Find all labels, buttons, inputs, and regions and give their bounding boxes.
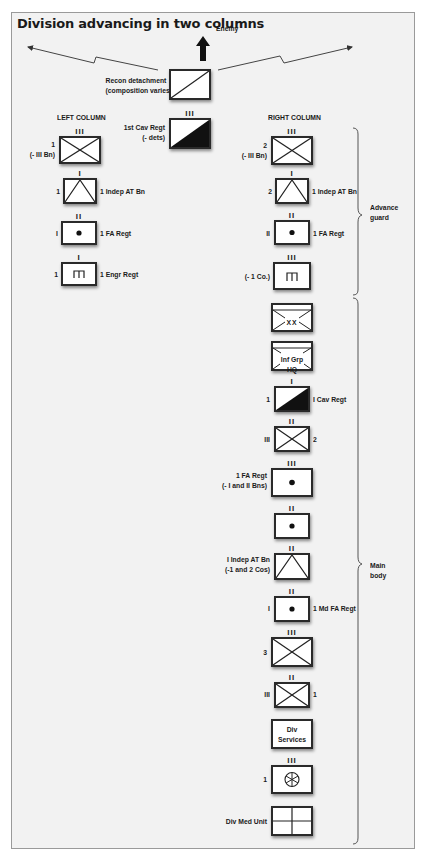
echelon-mark: I <box>63 170 97 178</box>
cavalry-symbol <box>274 386 310 412</box>
echelon-mark: II <box>274 545 310 553</box>
unit-left-label: I <box>253 604 270 614</box>
echelon-mark: II <box>274 418 310 426</box>
cavalry-regiment-symbol <box>169 118 211 149</box>
infantry-battalion-symbol <box>274 682 310 708</box>
echelon-mark: II <box>274 674 310 682</box>
echelon-mark: II <box>61 213 97 221</box>
infantry-battalion-symbol <box>274 426 310 452</box>
field-artillery-symbol <box>271 468 313 497</box>
unit-right-label: 1 Indep AT Bn <box>312 187 357 197</box>
unit-right-label: I Cav Regt <box>313 395 346 405</box>
echelon-mark: II <box>274 212 310 220</box>
unit-right-label: 1 Indep AT Bn <box>100 187 145 197</box>
enemy-label: Enemy <box>216 24 238 34</box>
unit-left-label: Div Med Unit <box>210 817 267 827</box>
infantry-regiment-symbol <box>271 136 313 165</box>
unit-left-label: 1 <box>250 775 267 785</box>
right-recon-arrow <box>218 47 352 70</box>
medium-artillery-symbol <box>274 596 310 622</box>
anti-tank-battalion-symbol <box>274 553 310 580</box>
hq-designator: XX <box>276 318 308 328</box>
echelon-mark: III <box>271 629 313 637</box>
unit-left-label: II <box>253 229 270 239</box>
unit-left-label: 1(- III Bn) <box>17 140 55 160</box>
unit-right-label: 1 <box>313 690 317 700</box>
echelon-mark: III <box>271 128 313 136</box>
unit-left-label: 1 <box>43 187 60 197</box>
engineer-symbol <box>273 262 311 290</box>
unit-left-label: III <box>253 690 270 700</box>
echelon-mark: III <box>271 460 313 468</box>
division-hq-symbol: XX <box>271 303 313 332</box>
unit-left-label: 1 <box>253 395 270 405</box>
unit-left-label: 1 <box>41 270 58 280</box>
advance-guard-label: Advanceguard <box>370 203 398 223</box>
recon-label: Recon detachment(composition varies) <box>106 76 166 96</box>
unit-right-label: 2 <box>313 435 317 445</box>
left-recon-arrow <box>28 47 158 70</box>
echelon-mark: I <box>275 170 309 178</box>
field-artillery-symbol <box>61 221 97 245</box>
anti-tank-battalion-symbol <box>63 178 97 204</box>
division-services-symbol: DivServices <box>271 719 313 749</box>
anti-tank-battalion-symbol <box>275 178 309 204</box>
advance-guard-brace <box>353 128 362 295</box>
unit-left-label: 1 FA Regt(- I and II Bns) <box>210 471 267 491</box>
cav-regt-label: 1st Cav Regt(- dets) <box>110 123 165 143</box>
hq-label: Inf Grp HQ <box>276 355 308 375</box>
unit-right-label: 1 Md FA Regt <box>313 604 356 614</box>
unit-right-label: 1 Engr Regt <box>100 270 138 280</box>
field-artillery-symbol <box>274 513 310 539</box>
unit-right-label: 1 FA Regt <box>100 229 131 239</box>
transport-symbol <box>271 765 313 794</box>
unit-left-label: 2(- III Bn) <box>229 141 267 161</box>
unit-right-label: 1 FA Regt <box>313 229 344 239</box>
echelon-mark: III <box>273 254 311 262</box>
echelon-mark: I <box>274 378 310 386</box>
infantry-regiment-symbol <box>271 637 313 667</box>
echelon-mark: III <box>59 128 101 136</box>
main-body-label: Mainbody <box>370 561 386 581</box>
unit-left-label: 3 <box>250 648 267 658</box>
infantry-group-hq-symbol: Inf Grp HQ <box>271 341 313 371</box>
medical-unit-symbol <box>271 806 313 836</box>
recon-detachment-symbol <box>169 69 211 100</box>
unit-left-label: I Indep AT Bn(-1 and 2 Cos) <box>211 555 271 575</box>
unit-left-label: (- 1 Co.) <box>229 272 270 282</box>
services-label: DivServices <box>276 725 308 745</box>
unit-left-label: 2 <box>255 187 272 197</box>
cav-regt-echelon: III <box>169 110 211 118</box>
echelon-mark: I <box>61 254 97 262</box>
main-body-brace <box>353 298 362 844</box>
enemy-arrow-icon <box>196 36 210 61</box>
unit-left-label: III <box>253 435 270 445</box>
field-artillery-symbol <box>274 220 310 245</box>
echelon-mark: II <box>274 588 310 596</box>
engineer-symbol <box>61 262 97 286</box>
echelon-mark: II <box>274 505 310 513</box>
echelon-mark: III <box>271 757 313 765</box>
infantry-regiment-symbol <box>59 136 101 164</box>
right-column-header: RIGHT COLUMN <box>268 113 321 122</box>
left-column-header: LEFT COLUMN <box>57 113 106 122</box>
unit-left-label: I <box>41 229 58 239</box>
